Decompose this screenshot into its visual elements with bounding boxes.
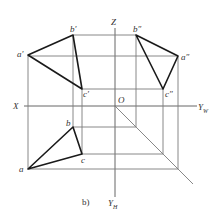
- projection-diagram: X Z O YW YH a′ b′ c′ a″ b″ c″ a b c b): [0, 0, 221, 222]
- yw-axis-label: YW: [198, 102, 209, 114]
- miter-45-line: [115, 106, 193, 184]
- label-c-double-prime: c″: [165, 89, 173, 99]
- label-b-prime: b′: [70, 24, 78, 34]
- label-b: b: [66, 118, 71, 128]
- label-b-double-prime: b″: [133, 24, 142, 34]
- label-a: a: [19, 164, 24, 174]
- origin-label: O: [118, 95, 125, 105]
- label-c-prime: c′: [83, 89, 90, 99]
- label-a-prime: a′: [17, 49, 25, 59]
- figure-caption: b): [82, 197, 90, 207]
- z-axis-label: Z: [111, 17, 117, 27]
- label-c: c: [81, 155, 85, 165]
- front-view-triangle: [28, 35, 82, 89]
- x-axis-label: X: [12, 101, 19, 111]
- top-view-triangle: [28, 127, 82, 169]
- yh-axis-label: YH: [108, 198, 118, 210]
- side-view-triangle: [136, 35, 178, 89]
- label-a-double-prime: a″: [181, 52, 190, 62]
